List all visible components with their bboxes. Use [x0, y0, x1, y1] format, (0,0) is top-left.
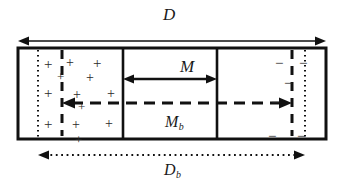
negative-charge-symbol: −: [297, 129, 305, 144]
positive-charge-symbol: +: [78, 100, 85, 113]
positive-charge-symbol: +: [105, 117, 113, 131]
negative-charge-symbol: −: [271, 95, 279, 110]
label-Db-subscript: b: [176, 169, 181, 180]
negative-charge-symbol: −: [275, 56, 283, 71]
db-arrow-head-left: [38, 151, 49, 160]
negative-charge-symbol: −: [268, 129, 276, 144]
positive-charge-symbol: +: [72, 118, 80, 132]
negative-charge-symbol: −: [299, 56, 307, 71]
top-arrow-head-right: [315, 37, 326, 46]
label-middle-region-M: M: [180, 58, 194, 75]
positive-charge-symbol: +: [93, 56, 101, 71]
top-width-arrow-D: [18, 37, 326, 46]
label-Mb-base: M: [165, 113, 178, 130]
label-middle-region-Mb: Mb: [165, 114, 183, 130]
positive-charge-symbol: +: [44, 86, 52, 101]
positive-charge-symbol: +: [75, 133, 82, 146]
db-arrow-head-right: [294, 151, 305, 160]
positive-charge-symbol: +: [44, 117, 52, 132]
bottom-width-arrow-Db: [38, 151, 305, 160]
positive-charge-symbol: +: [57, 70, 64, 83]
label-total-width-D: D: [163, 6, 175, 23]
label-Mb-subscript: b: [179, 121, 184, 132]
label-Db-base: D: [164, 161, 176, 178]
positive-charge-symbol: +: [44, 57, 52, 72]
negative-charge-symbol: −: [284, 76, 292, 91]
top-arrow-head-left: [18, 37, 29, 46]
positive-charge-symbol: +: [66, 56, 74, 70]
positive-charge-symbol: +: [86, 71, 94, 85]
label-bottom-width-Db: Db: [164, 162, 181, 178]
schematic-diagram: +++++++++++++ −−−−−− D M Mb Db: [0, 0, 343, 185]
positive-charge-symbol: +: [107, 87, 115, 101]
